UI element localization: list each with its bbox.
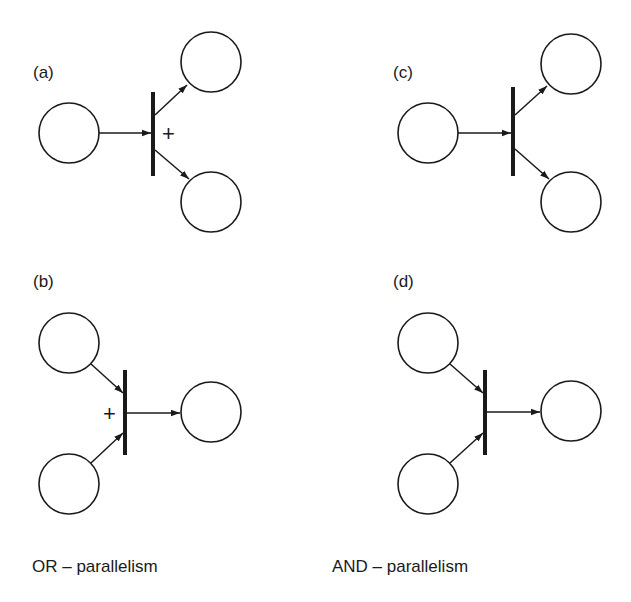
arc-bottom-input-to-transition <box>91 433 123 463</box>
place-input-top <box>398 313 458 373</box>
panel-d-label: (d) <box>393 272 414 291</box>
petri-net-diagram: (a) + (c) (b) + (d) <box>0 0 631 602</box>
or-plus-marker: + <box>103 401 116 426</box>
panel-d: (d) <box>393 272 601 514</box>
arc-transition-to-bottom-output <box>155 150 189 179</box>
caption-or-parallelism: OR – parallelism <box>32 557 158 576</box>
place-input-top <box>39 313 99 373</box>
panel-a-label: (a) <box>33 63 54 82</box>
panel-b-label: (b) <box>33 272 54 291</box>
arc-bottom-input-to-transition <box>450 433 483 463</box>
place-output-top <box>181 32 241 92</box>
place-input-bottom <box>39 454 99 514</box>
arc-transition-to-top-output <box>515 86 547 115</box>
caption-and-parallelism: AND – parallelism <box>332 557 468 576</box>
place-output-bottom <box>541 172 601 232</box>
place-input <box>39 103 99 163</box>
place-output-top <box>541 34 601 94</box>
panel-c: (c) <box>393 34 601 232</box>
arc-transition-to-bottom-output <box>515 149 549 179</box>
place-output <box>181 382 241 442</box>
arc-top-input-to-transition <box>450 364 483 393</box>
panel-c-label: (c) <box>393 63 413 82</box>
panel-b: (b) + <box>33 272 241 514</box>
place-output-bottom <box>181 172 241 232</box>
arc-top-input-to-transition <box>91 364 123 393</box>
arc-transition-to-top-output <box>155 85 187 115</box>
place-output <box>541 381 601 441</box>
place-input <box>398 103 458 163</box>
panel-a: (a) + <box>33 32 241 232</box>
place-input-bottom <box>398 454 458 514</box>
or-plus-marker: + <box>162 121 175 146</box>
